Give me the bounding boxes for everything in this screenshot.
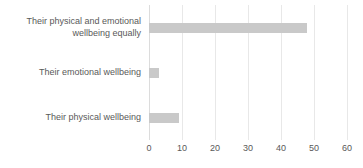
gridline [347, 5, 348, 140]
bar [149, 68, 159, 78]
x-axis-tick-labels: 0 10 20 30 40 50 60 [149, 143, 347, 159]
category-label: Their physical and emotional wellbeing e… [0, 16, 141, 39]
bar [149, 113, 179, 123]
x-tick-label: 60 [342, 143, 352, 153]
x-tick-label: 20 [210, 143, 220, 153]
gridline [314, 5, 315, 140]
x-tick-label: 0 [146, 143, 151, 153]
horizontal-bar-chart: Their physical and emotional wellbeing e… [0, 0, 363, 168]
x-tick-label: 10 [177, 143, 187, 153]
plot-area [149, 5, 347, 140]
category-label: Their physical wellbeing [0, 112, 141, 124]
x-tick-label: 50 [309, 143, 319, 153]
category-axis-labels: Their physical and emotional wellbeing e… [0, 5, 145, 140]
category-label: Their emotional wellbeing [0, 67, 141, 79]
bar [149, 23, 307, 33]
x-tick-label: 40 [276, 143, 286, 153]
x-tick-label: 30 [243, 143, 253, 153]
